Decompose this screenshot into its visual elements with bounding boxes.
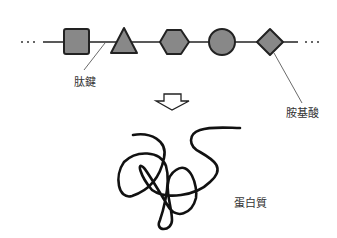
amino-acid-hexagon (160, 30, 189, 54)
protein-strand (118, 128, 240, 230)
ellipsis-right (305, 41, 319, 43)
protein-label: 蛋白質 (234, 194, 267, 210)
amino-acid-leader (274, 53, 302, 103)
ellipsis-left (21, 41, 35, 43)
peptide-bond-label: 肽鍵 (74, 73, 96, 89)
amino-acid-diamond (257, 29, 283, 55)
amino-acid-triangle (111, 28, 137, 53)
amino-acid-label: 胺基酸 (286, 104, 319, 120)
amino-acid-circle (209, 29, 235, 55)
amino-acid-square (64, 29, 89, 54)
down-arrow-icon (156, 94, 189, 110)
